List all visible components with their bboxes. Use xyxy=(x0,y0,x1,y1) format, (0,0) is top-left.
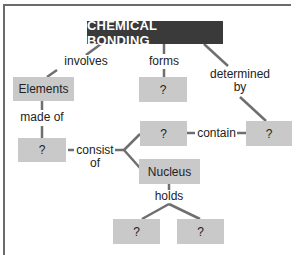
node-elements: Elements xyxy=(13,77,74,101)
title-node: CHEMICAL BONDING xyxy=(87,21,223,44)
link-label-of: of xyxy=(85,157,105,170)
node-contain-target: ? xyxy=(246,121,292,146)
node-made-of-target: ? xyxy=(18,138,66,162)
node-holds-left: ? xyxy=(113,219,160,244)
link-label-holds: holds xyxy=(149,190,189,203)
node-forms-target: ? xyxy=(139,77,187,102)
node-contain-source: ? xyxy=(140,121,187,146)
node-holds-right: ? xyxy=(177,219,224,244)
node-nucleus: Nucleus xyxy=(139,159,200,184)
link-label-involves: involves xyxy=(51,55,121,68)
link-label-by: by xyxy=(225,81,255,94)
link-label-forms: forms xyxy=(139,55,189,68)
link-label-made-of: made of xyxy=(12,111,72,124)
link-label-contain: contain xyxy=(196,127,237,140)
